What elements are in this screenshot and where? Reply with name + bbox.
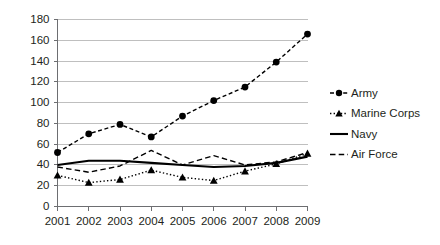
data-point-army: [304, 31, 311, 38]
x-axis: [58, 207, 308, 212]
y-axis-label: 180: [30, 13, 49, 25]
y-axis-label: 100: [30, 96, 49, 108]
series-line-army: [58, 34, 308, 152]
x-axis-label: 2001: [45, 215, 71, 227]
y-axis-tick-labels: 020406080100120140160180: [30, 13, 49, 212]
x-axis-label: 2004: [138, 215, 164, 227]
data-point-army: [242, 84, 249, 91]
legend-item-army[interactable]: Army: [330, 87, 378, 99]
legend-label-air-force: Air Force: [351, 148, 398, 160]
x-axis-label: 2003: [107, 215, 133, 227]
chart-canvas: 020406080100120140160180 200120022003200…: [0, 0, 440, 245]
x-axis-label: 2002: [76, 215, 102, 227]
y-axis-label: 120: [30, 75, 49, 87]
y-axis-label: 0: [43, 200, 49, 212]
data-point-army: [117, 121, 124, 128]
data-point-marine-corps: [147, 166, 155, 173]
y-axis-label: 40: [37, 158, 50, 170]
legend-label-army: Army: [351, 87, 378, 99]
y-axis-label: 80: [37, 117, 50, 129]
x-axis-tick-labels: 200120022003200420052006200720082009: [45, 215, 321, 227]
chart-legend: ArmyMarine CorpsNavyAir Force: [330, 87, 420, 161]
data-point-army: [273, 59, 280, 66]
data-point-marine-corps: [54, 171, 62, 178]
legend-label-marine-corps: Marine Corps: [351, 107, 420, 119]
legend-item-navy[interactable]: Navy: [330, 128, 377, 140]
data-point-army: [54, 149, 61, 156]
x-axis-label: 2006: [201, 215, 227, 227]
line-chart: 020406080100120140160180 200120022003200…: [0, 0, 440, 245]
x-axis-label: 2008: [263, 215, 289, 227]
data-point-army: [85, 130, 92, 137]
y-axis-label: 140: [30, 55, 49, 67]
y-axis-label: 20: [37, 179, 50, 191]
data-point-marine-corps: [116, 176, 124, 183]
legend-item-air-force[interactable]: Air Force: [330, 148, 398, 160]
y-axis-label: 60: [37, 138, 50, 150]
series-army: [54, 31, 311, 156]
x-axis-label: 2005: [170, 215, 196, 227]
x-axis-label: 2007: [232, 215, 258, 227]
legend-marker-army: [336, 90, 342, 96]
plot-series-group: [54, 31, 312, 186]
legend-item-marine-corps[interactable]: Marine Corps: [330, 107, 420, 119]
y-axis-label: 160: [30, 34, 49, 46]
data-point-army: [179, 113, 186, 120]
series-marine-corps: [54, 150, 312, 186]
x-axis-label: 2009: [295, 215, 321, 227]
data-point-army: [210, 97, 217, 104]
data-point-army: [148, 133, 155, 140]
legend-label-navy: Navy: [351, 128, 377, 140]
